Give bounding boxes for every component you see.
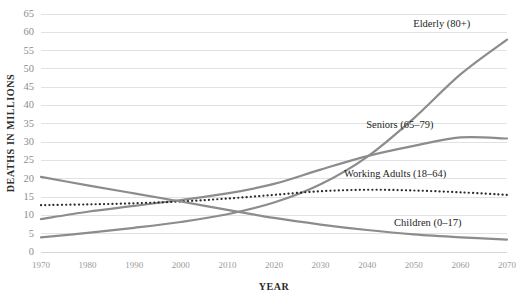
y-axis-title: DEATHS IN MILLIONS [5, 74, 16, 192]
y-axis-tick-label: 45 [24, 81, 35, 92]
x-axis-tick-labels: 1970198019902000201020202030204020502060… [32, 260, 517, 270]
y-axis-tick-label: 65 [24, 8, 35, 19]
y-axis-tick-label: 0 [29, 246, 34, 257]
y-axis-tick-label: 60 [24, 26, 35, 37]
series-label-3: Children (0–17) [394, 217, 462, 229]
chart-container: 05101520253035404550556065 1970198019902… [0, 0, 532, 304]
y-axis-tick-label: 40 [24, 99, 35, 110]
x-axis-tick-label: 1970 [32, 260, 51, 270]
x-axis-tick-label: 2000 [172, 260, 191, 270]
x-axis-tick-label: 2030 [312, 260, 331, 270]
x-axis-tick-label: 2010 [218, 260, 237, 270]
series-label-0: Elderly (80+) [413, 18, 470, 30]
y-axis-tick-label: 20 [24, 173, 35, 184]
series-label-1: Seniors (65–79) [366, 119, 434, 131]
x-axis-title: YEAR [259, 281, 290, 292]
y-axis-tick-label: 10 [24, 209, 35, 220]
x-axis-tick-label: 2070 [498, 260, 517, 270]
x-axis-tick-label: 1990 [125, 260, 144, 270]
y-axis-tick-label: 55 [24, 45, 35, 56]
series-label-2: Working Adults (18–64) [344, 168, 447, 180]
y-axis-tick-label: 50 [24, 63, 35, 74]
series-lines [41, 40, 507, 240]
line-chart: 05101520253035404550556065 1970198019902… [0, 0, 532, 304]
y-axis-tick-label: 35 [24, 118, 35, 129]
x-axis-tick-label: 2040 [358, 260, 377, 270]
y-axis-tick-label: 15 [24, 191, 35, 202]
x-axis-tick-label: 2050 [405, 260, 424, 270]
y-axis-tick-label: 25 [24, 154, 35, 165]
x-axis-tick-label: 1980 [79, 260, 98, 270]
y-axis-tick-label: 5 [29, 228, 34, 239]
x-axis-tick-label: 2060 [451, 260, 470, 270]
x-axis-tick-label: 2020 [265, 260, 284, 270]
y-axis-tick-label: 30 [24, 136, 35, 147]
y-axis-tick-labels: 05101520253035404550556065 [24, 8, 35, 257]
